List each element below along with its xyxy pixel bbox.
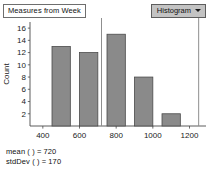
y-tick-label: 2 <box>22 110 27 119</box>
y-tick-label: 10 <box>17 61 26 70</box>
chevron-down-icon <box>195 9 201 12</box>
x-tick-label: 400 <box>36 131 50 140</box>
histogram-bar[interactable] <box>162 114 180 126</box>
x-axis-title: paycheck <box>101 141 136 142</box>
histogram-bar[interactable] <box>107 34 125 126</box>
summary-statistics: mean ( ) = 720 stdDev ( ) = 170 <box>6 147 61 166</box>
y-tick-label: 14 <box>17 36 26 45</box>
histogram-bar[interactable] <box>135 77 153 126</box>
x-tick-label: 800 <box>109 131 123 140</box>
y-tick-label: 12 <box>17 48 26 57</box>
x-tick-label: 1000 <box>144 131 162 140</box>
y-tick-label: 16 <box>17 24 26 33</box>
x-tick-label: 1200 <box>181 131 199 140</box>
stddev-stat: stdDev ( ) = 170 <box>6 157 61 167</box>
histogram-bar[interactable] <box>52 46 70 126</box>
x-axis-ticks: 40060080010001200 <box>36 126 199 140</box>
bars <box>52 34 180 126</box>
histogram-plot-window: Measures from Week Histogram 24681012141… <box>0 0 208 171</box>
mean-stat: mean ( ) = 720 <box>6 147 61 157</box>
histogram-chart: 24681012141640060080010001200paycheckCou… <box>0 16 208 142</box>
plot-type-label: Histogram <box>157 6 191 15</box>
y-tick-label: 4 <box>22 97 27 106</box>
y-axis-ticks: 246810121416 <box>17 24 30 119</box>
y-tick-label: 8 <box>22 73 27 82</box>
y-tick-label: 6 <box>22 85 27 94</box>
x-tick-label: 600 <box>73 131 87 140</box>
y-axis-title: Count <box>2 63 11 85</box>
histogram-bar[interactable] <box>80 53 98 126</box>
